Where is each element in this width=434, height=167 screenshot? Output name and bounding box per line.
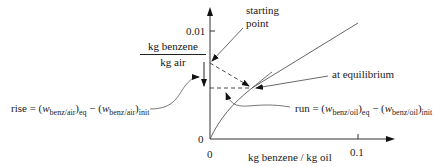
run-pointer-curve [226,93,290,107]
starting-point-label-line2: point [246,17,269,29]
x-axis-arrow-icon [386,136,395,142]
x-axis-label: kg benzene / kg oil [248,151,332,163]
x-tick-label-0: 0 [207,148,213,160]
y-tick-label-0.01: 0.01 [186,25,205,37]
run-formula: run = (wbenz/oil)eq − (wbenz/oil)init [295,102,432,114]
equilibrium-label: at equilibrium [332,68,394,80]
equilibrium-pointer [256,76,328,88]
starting-point-label-line1: starting [246,4,279,16]
path-dashed-line [210,63,249,86]
diagram-canvas [0,0,434,167]
x-tick-label-0.1: 0.1 [350,146,364,158]
rise-formula: rise = (wbenz/air)eq − (wbenz/air)init [11,102,149,114]
starting-point-pointer [212,28,243,61]
rise-pointer-curve [150,77,199,109]
y-axis-label-numerator: kg benzene [140,40,206,55]
y-tick-label-0: 0 [198,133,204,145]
y-axis-arrow-icon [207,7,213,16]
y-axis-label-denominator: kg air [140,55,206,69]
y-axis-label: kg benzene kg air [140,40,206,69]
